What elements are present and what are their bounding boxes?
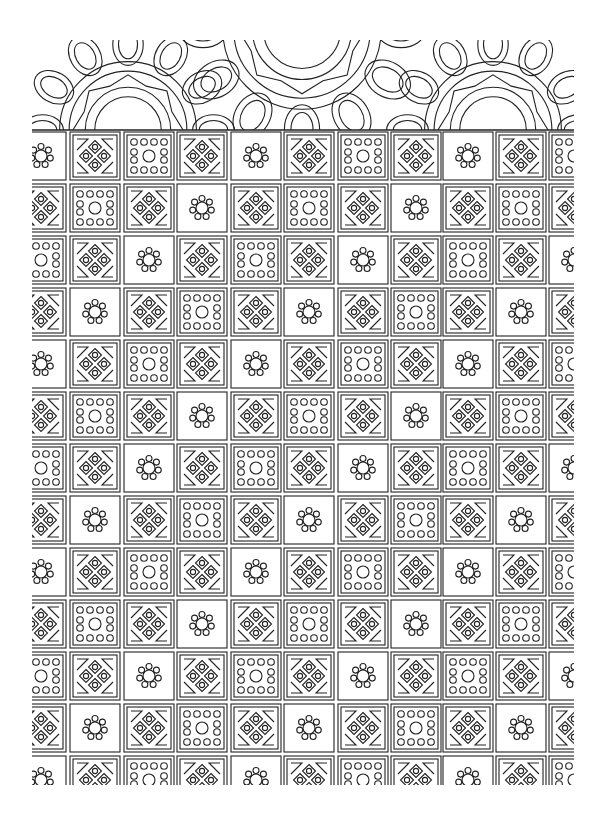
diamond-cross-tile-icon: [124, 704, 174, 752]
diamond-cross-tile-icon: [284, 548, 334, 596]
dot-ring-tile-icon: [124, 340, 174, 388]
diamond-cross-tile-icon: [16, 392, 66, 440]
flower-tile-icon: [231, 548, 281, 596]
flower-tile-icon: [70, 704, 120, 752]
diamond-cross-tile-icon: [231, 288, 281, 336]
diamond-cross-tile-icon: [231, 184, 281, 232]
diamond-cross-tile-icon: [70, 132, 120, 180]
diamond-cross-tile-icon: [70, 444, 120, 492]
flower-tile-icon: [284, 704, 334, 752]
flower-tile-icon: [391, 600, 441, 648]
dot-ring-tile-icon: [231, 652, 281, 700]
flower-tile-icon: [391, 392, 441, 440]
diamond-cross-tile-icon: [284, 444, 334, 492]
diamond-cross-tile-icon: [549, 184, 599, 232]
dot-ring-tile-icon: [16, 652, 66, 700]
flower-tile-icon: [549, 652, 599, 700]
diamond-cross-tile-icon: [124, 288, 174, 336]
dot-ring-tile-icon: [70, 392, 120, 440]
diamond-cross-tile-icon: [549, 496, 599, 544]
diamond-cross-tile-icon: [177, 132, 227, 180]
diamond-cross-tile-icon: [16, 600, 66, 648]
diamond-cross-tile-icon: [177, 756, 227, 804]
flower-tile-icon: [391, 184, 441, 232]
flower-tile-icon: [231, 132, 281, 180]
diamond-cross-tile-icon: [338, 704, 388, 752]
flower-tile-icon: [16, 132, 66, 180]
diamond-cross-tile-icon: [70, 652, 120, 700]
diamond-cross-tile-icon: [177, 444, 227, 492]
dot-ring-tile-icon: [284, 184, 334, 232]
dot-ring-tile-icon: [338, 756, 388, 804]
diamond-cross-tile-icon: [124, 600, 174, 648]
flower-tile-icon: [124, 236, 174, 284]
diamond-cross-tile-icon: [16, 288, 66, 336]
diamond-cross-tile-icon: [496, 756, 546, 804]
diamond-cross-tile-icon: [338, 184, 388, 232]
flower-tile-icon: [16, 756, 66, 804]
flower-tile-icon: [496, 288, 546, 336]
diamond-cross-tile-icon: [443, 704, 493, 752]
flower-tile-icon: [177, 184, 227, 232]
dot-ring-tile-icon: [549, 548, 599, 596]
diamond-cross-tile-icon: [443, 392, 493, 440]
diamond-cross-tile-icon: [549, 704, 599, 752]
diamond-cross-tile-icon: [177, 340, 227, 388]
diamond-cross-tile-icon: [338, 288, 388, 336]
flower-tile-icon: [16, 340, 66, 388]
diamond-cross-tile-icon: [443, 496, 493, 544]
dot-ring-tile-icon: [496, 392, 546, 440]
diamond-cross-tile-icon: [284, 652, 334, 700]
diamond-cross-tile-icon: [391, 652, 441, 700]
coloring-page: Geometric tile pattern coloring page: [0, 0, 604, 825]
diamond-cross-tile-icon: [496, 548, 546, 596]
dot-ring-tile-icon: [549, 132, 599, 180]
dot-ring-tile-icon: [443, 652, 493, 700]
diamond-cross-tile-icon: [284, 340, 334, 388]
dot-ring-tile-icon: [231, 444, 281, 492]
diamond-cross-tile-icon: [231, 392, 281, 440]
diamond-cross-tile-icon: [231, 496, 281, 544]
diamond-cross-tile-icon: [443, 184, 493, 232]
flower-tile-icon: [443, 548, 493, 596]
flower-tile-icon: [496, 704, 546, 752]
diamond-cross-tile-icon: [549, 288, 599, 336]
dot-ring-tile-icon: [16, 236, 66, 284]
diamond-cross-tile-icon: [284, 756, 334, 804]
dot-ring-tile-icon: [549, 756, 599, 804]
flower-tile-icon: [124, 444, 174, 492]
diamond-cross-tile-icon: [231, 704, 281, 752]
dot-ring-tile-icon: [443, 444, 493, 492]
flower-tile-icon: [338, 652, 388, 700]
diamond-cross-tile-icon: [391, 444, 441, 492]
flower-tile-icon: [231, 756, 281, 804]
flower-tile-icon: [16, 548, 66, 596]
dot-ring-tile-icon: [391, 704, 441, 752]
diamond-cross-tile-icon: [391, 756, 441, 804]
flower-tile-icon: [70, 496, 120, 544]
dot-ring-tile-icon: [338, 132, 388, 180]
diamond-cross-tile-icon: [496, 132, 546, 180]
flower-tile-icon: [338, 444, 388, 492]
diamond-cross-tile-icon: [338, 600, 388, 648]
diamond-cross-tile-icon: [177, 652, 227, 700]
diamond-cross-tile-icon: [391, 548, 441, 596]
diamond-cross-tile-icon: [338, 496, 388, 544]
diamond-cross-tile-icon: [496, 652, 546, 700]
diamond-cross-tile-icon: [124, 496, 174, 544]
dot-ring-tile-icon: [70, 184, 120, 232]
diamond-cross-tile-icon: [391, 236, 441, 284]
dot-ring-tile-icon: [284, 600, 334, 648]
dot-ring-tile-icon: [496, 184, 546, 232]
dot-ring-tile-icon: [338, 340, 388, 388]
diamond-cross-tile-icon: [549, 392, 599, 440]
diamond-cross-tile-icon: [70, 548, 120, 596]
dot-ring-tile-icon: [549, 340, 599, 388]
dot-ring-tile-icon: [284, 392, 334, 440]
dot-ring-tile-icon: [124, 548, 174, 596]
dot-ring-tile-icon: [231, 236, 281, 284]
diamond-cross-tile-icon: [16, 184, 66, 232]
flower-tile-icon: [177, 392, 227, 440]
flower-tile-icon: [549, 444, 599, 492]
dot-ring-tile-icon: [496, 600, 546, 648]
